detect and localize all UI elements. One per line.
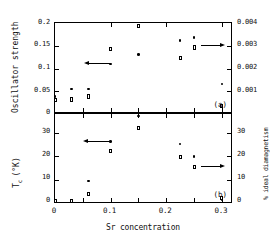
panel-a-point-square [137, 24, 140, 29]
panel-a-left-tick [55, 46, 59, 47]
panel-b-right-tick [227, 156, 231, 157]
panel-b-point-square [54, 199, 57, 204]
figure-root: Oscillator strength 0.2 0.15 0.1 0.05 0 … [0, 0, 275, 243]
panel-a-left-tick-label-1: 0.15 [16, 41, 50, 48]
panel-b-point-circle [179, 143, 182, 146]
panel-a-point-circle [70, 88, 73, 91]
panel-a-right-tick [227, 91, 231, 92]
panel-a-top-tick [111, 23, 112, 27]
panel-a-point-square [70, 97, 73, 102]
panel-b-ylabel: Tc(°K) [12, 157, 23, 188]
panel-b-right-tick-label-2: 10 [237, 174, 245, 181]
panel-b-point-square [137, 126, 140, 131]
panel-a-right-axis-arrow [201, 43, 225, 48]
panel-a-bottom-tick [138, 108, 139, 112]
panel-a-right-tick [227, 69, 231, 70]
panel-a-bottom-tick [83, 108, 84, 112]
panel-a-right-tick-label-2: 0.002 [237, 64, 257, 71]
panel-b-left-tick [55, 133, 59, 134]
panel-b-top-tick [166, 114, 167, 118]
panel-b-top-tick [111, 114, 112, 118]
panel-b-left-tick-label-3: 0 [16, 197, 50, 204]
panel-b-right-tick-label-3: 0 [237, 197, 241, 204]
panel-b-top-tick [194, 114, 195, 118]
panel-b-right-tick [227, 133, 231, 134]
panel-b-point-circle [193, 155, 196, 158]
panel-a-point-circle [137, 53, 140, 56]
x-tick-label-3: 0.3 [209, 207, 233, 215]
x-tick-label-1: 0.1 [98, 207, 122, 215]
panel-b-right-tick-label-1: 20 [237, 151, 245, 158]
panel-b-left-tick [55, 180, 59, 181]
panel-b-point-circle [87, 180, 90, 183]
panel-b-point-square [87, 192, 90, 197]
panel-b-point-square [109, 149, 112, 154]
panel-a-left-axis-arrow [84, 61, 110, 66]
panel-a-point-square [109, 47, 112, 52]
panel-a-top-tick [222, 23, 223, 27]
panel-b-right-tick [227, 180, 231, 181]
x-tick-label-0: 0 [42, 207, 66, 215]
panel-b-bottom-tick [111, 198, 112, 202]
panel-b-point-square [193, 165, 196, 170]
panel-a-top-tick [166, 23, 167, 27]
panel-a-point-square [179, 56, 182, 61]
panel-a-bottom-tick [194, 108, 195, 112]
panel-a-left-tick [55, 69, 59, 70]
panel-a-left-tick-label-2: 0.1 [16, 64, 50, 71]
panel-a-left-tick-label-0: 0.2 [16, 19, 50, 26]
panel-b-bottom-tick [83, 198, 84, 202]
panel-a-point-square [87, 94, 90, 99]
panel-a-point-circle [221, 83, 224, 86]
panel-b-point-square [70, 199, 73, 204]
panel-b-right-axis-arrow [201, 164, 225, 169]
panel-b-top-tick [222, 114, 223, 118]
panel-b-right-ylabel: % ideal diamagnetism [262, 128, 270, 200]
panel-a-plot-area: (a) [54, 22, 232, 113]
panel-a-left-tick-label-4: 0 [16, 109, 50, 116]
panel-a-right-tick [227, 46, 231, 47]
panel-a-point-square [54, 98, 57, 103]
panel-b-bottom-tick [194, 198, 195, 202]
panel-b-label: (b) [213, 190, 227, 199]
panel-a-right-tick-label-1: 0.003 [237, 41, 257, 48]
panel-a-point-circle [87, 88, 90, 91]
panel-a-bottom-tick [166, 108, 167, 112]
panel-b-point-square [179, 155, 182, 160]
panel-b-top-tick [83, 114, 84, 118]
panel-a-right-tick-label-3: 0.001 [237, 87, 257, 94]
panel-a-point-circle [193, 36, 196, 39]
panel-a-point-circle [179, 39, 182, 42]
panel-b-left-tick-label-0: 30 [16, 128, 50, 135]
panel-b-point-circle [109, 140, 112, 143]
panel-b-ylabel-tc: T [12, 183, 21, 188]
panel-a-left-tick [55, 91, 59, 92]
panel-b-left-tick-label-1: 20 [16, 151, 50, 158]
panel-b-left-tick [55, 156, 59, 157]
panel-b-left-tick-label-2: 10 [16, 174, 50, 181]
panel-b-bottom-tick [166, 198, 167, 202]
x-tick-label-2: 0.2 [153, 207, 177, 215]
panel-b-left-axis-arrow [83, 139, 109, 144]
panel-a-bottom-tick [111, 108, 112, 112]
panel-b-bottom-tick [138, 198, 139, 202]
x-axis-label: Sr concentration [54, 224, 232, 232]
panel-a-right-tick-label-0: 0.004 [237, 19, 257, 26]
panel-b-right-tick-label-0: 30 [237, 128, 245, 135]
panel-a-left-tick-label-3: 0.05 [16, 87, 50, 94]
panel-a-point-square [193, 45, 196, 50]
panel-b-plot-area: (b) [54, 113, 232, 203]
panel-a-label: (a) [213, 100, 227, 109]
